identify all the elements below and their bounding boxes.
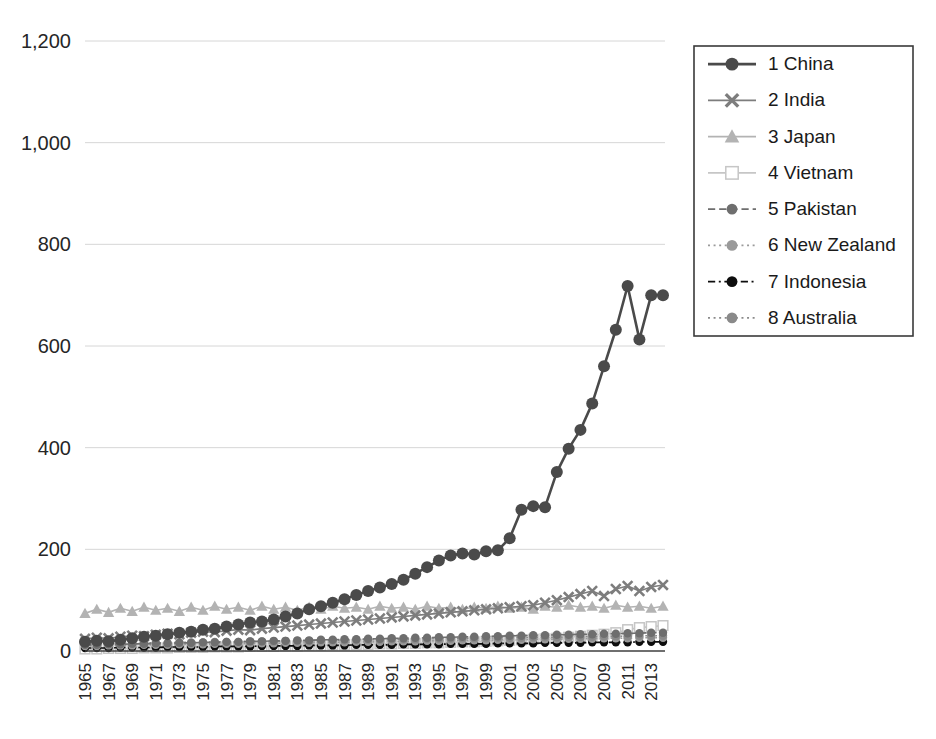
data-point-marker bbox=[588, 630, 596, 638]
data-point-marker bbox=[175, 639, 183, 647]
data-point-marker bbox=[91, 635, 103, 647]
data-point-marker bbox=[126, 632, 138, 644]
legend-item-label: 3 Japan bbox=[768, 126, 836, 147]
x-axis-tick-label: 2011 bbox=[619, 663, 638, 700]
data-point-marker bbox=[317, 636, 325, 644]
data-point-marker bbox=[659, 629, 667, 637]
legend-item-label: 6 New Zealand bbox=[768, 234, 896, 255]
y-axis-tick-label: 200 bbox=[38, 538, 71, 560]
x-axis-tick-label: 2005 bbox=[548, 663, 567, 701]
data-point-marker bbox=[657, 289, 669, 301]
x-axis-tick-label: 1985 bbox=[312, 663, 331, 701]
y-axis-tick-label: 1,200 bbox=[21, 30, 71, 52]
data-point-marker bbox=[293, 636, 301, 644]
x-axis-tick-label: 1989 bbox=[359, 663, 378, 701]
data-point-marker bbox=[529, 631, 537, 639]
data-point-marker bbox=[574, 424, 586, 436]
data-point-marker bbox=[564, 631, 572, 639]
x-axis-tick-label: 1995 bbox=[430, 663, 449, 701]
data-point-marker bbox=[280, 610, 292, 622]
data-point-marker bbox=[399, 634, 407, 642]
data-point-marker bbox=[258, 637, 266, 645]
data-point-marker bbox=[362, 585, 374, 597]
data-point-marker bbox=[492, 544, 504, 556]
data-point-marker bbox=[374, 581, 386, 593]
chart-container: 02004006008001,0001,200 1965196719691971… bbox=[0, 0, 936, 739]
data-point-marker bbox=[256, 616, 268, 628]
data-point-marker bbox=[340, 635, 348, 643]
y-axis-tick-label: 1,000 bbox=[21, 132, 71, 154]
data-point-marker bbox=[211, 638, 219, 646]
data-point-marker bbox=[598, 360, 610, 372]
chart-legend: 1 China2 India3 Japan4 Vietnam5 Pakistan… bbox=[694, 46, 913, 336]
data-point-marker bbox=[386, 578, 398, 590]
data-point-marker bbox=[187, 639, 195, 647]
data-point-marker bbox=[622, 280, 634, 292]
data-point-marker bbox=[504, 532, 516, 544]
data-point-marker bbox=[234, 638, 242, 646]
data-point-marker bbox=[727, 312, 738, 323]
data-point-marker bbox=[199, 638, 207, 646]
data-point-marker bbox=[551, 466, 563, 478]
data-point-marker bbox=[411, 634, 419, 642]
legend-item-label: 5 Pakistan bbox=[768, 198, 857, 219]
data-point-marker bbox=[197, 624, 209, 636]
legend-item-label: 4 Vietnam bbox=[768, 162, 853, 183]
data-point-marker bbox=[103, 635, 115, 647]
data-point-marker bbox=[586, 397, 598, 409]
data-point-marker bbox=[468, 548, 480, 560]
data-point-marker bbox=[397, 574, 409, 586]
data-point-marker bbox=[539, 501, 551, 513]
data-point-marker bbox=[600, 630, 608, 638]
data-point-marker bbox=[541, 631, 549, 639]
y-axis-tick-label: 0 bbox=[60, 640, 71, 662]
data-point-marker bbox=[645, 289, 657, 301]
x-axis-tick-label: 1975 bbox=[194, 663, 213, 701]
data-point-marker bbox=[727, 240, 738, 251]
data-point-marker bbox=[364, 635, 372, 643]
data-point-marker bbox=[173, 627, 185, 639]
x-axis-tick-label: 2003 bbox=[524, 663, 543, 701]
legend-item-label: 1 China bbox=[768, 53, 834, 74]
data-point-marker bbox=[315, 600, 327, 612]
data-point-marker bbox=[421, 561, 433, 573]
data-point-marker bbox=[635, 629, 643, 637]
data-point-marker bbox=[726, 58, 739, 71]
data-point-marker bbox=[270, 637, 278, 645]
data-point-marker bbox=[517, 632, 525, 640]
data-point-marker bbox=[244, 617, 256, 629]
data-point-marker bbox=[633, 333, 645, 345]
data-point-marker bbox=[727, 204, 738, 215]
data-point-marker bbox=[515, 504, 527, 516]
data-point-marker bbox=[470, 633, 478, 641]
legend-item-label: 2 India bbox=[768, 89, 825, 110]
data-point-marker bbox=[505, 632, 513, 640]
data-point-marker bbox=[138, 631, 150, 643]
data-point-marker bbox=[352, 635, 360, 643]
data-point-marker bbox=[726, 167, 738, 179]
data-point-marker bbox=[647, 629, 655, 637]
data-point-marker bbox=[527, 500, 539, 512]
data-point-marker bbox=[409, 568, 421, 580]
data-point-marker bbox=[329, 636, 337, 644]
data-point-marker bbox=[387, 634, 395, 642]
x-axis-tick-label: 1993 bbox=[406, 663, 425, 701]
data-point-marker bbox=[480, 545, 492, 557]
data-point-marker bbox=[563, 443, 575, 455]
y-axis-tick-label: 400 bbox=[38, 437, 71, 459]
data-point-marker bbox=[727, 276, 738, 287]
legend-item-label: 7 Indonesia bbox=[768, 271, 867, 292]
data-point-marker bbox=[376, 635, 384, 643]
data-point-marker bbox=[494, 632, 502, 640]
data-point-marker bbox=[281, 637, 289, 645]
data-point-marker bbox=[163, 639, 171, 647]
x-axis-tick-label: 1965 bbox=[76, 663, 95, 701]
data-point-marker bbox=[446, 633, 454, 641]
data-point-marker bbox=[209, 623, 221, 635]
data-point-marker bbox=[246, 637, 254, 645]
x-axis-tick-label: 1997 bbox=[453, 663, 472, 701]
x-axis-tick-label: 1999 bbox=[477, 663, 496, 701]
x-axis-tick-label: 1977 bbox=[218, 663, 237, 701]
legend-item-label: 8 Australia bbox=[768, 307, 857, 328]
x-axis-tick-label: 2007 bbox=[571, 663, 590, 701]
